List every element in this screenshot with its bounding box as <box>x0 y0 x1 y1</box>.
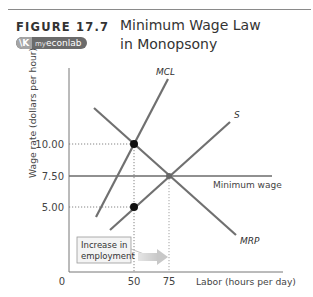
x-axis-title: Labor (hours per day) <box>196 276 296 287</box>
min-wage-label: Minimum wage <box>213 180 282 190</box>
mrp-curve <box>94 108 236 235</box>
xtick-50: 50 <box>128 276 141 287</box>
employment-arrow-icon <box>138 249 168 265</box>
svg-text:Increase in: Increase in <box>81 240 127 250</box>
point-mcl-mrp <box>130 140 138 148</box>
mrp-label: MRP <box>240 236 260 246</box>
xtick-75: 75 <box>163 276 176 287</box>
point-supply-50 <box>130 203 138 211</box>
svg-text:employment: employment <box>81 251 135 261</box>
y-axis-title: Wage rate (dollars per hour) <box>27 48 38 178</box>
mcl-label: MCL <box>156 67 175 77</box>
ytick-7-50: 7.50 <box>42 171 64 182</box>
mcl-curve <box>96 79 168 217</box>
ytick-10: 10.00 <box>35 139 64 150</box>
ytick-5: 5.00 <box>42 202 64 213</box>
chart: Increase in employment MCL S MRP Minimum… <box>0 0 313 297</box>
point-min-wage-eq <box>166 173 172 179</box>
xtick-0: 0 <box>59 276 65 287</box>
s-label: S <box>234 110 240 120</box>
